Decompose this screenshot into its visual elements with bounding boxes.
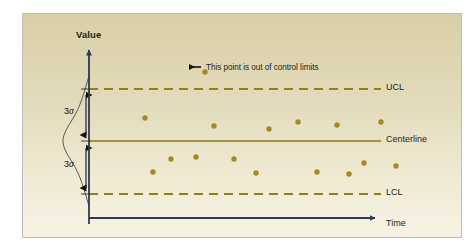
sigma-label-lower: 3σ [64,159,74,169]
control-chart-figure: Value Time UCL Centerline LCL This point… [22,13,462,238]
data-point [393,163,398,168]
sigma-lower-symbol: σ [69,159,74,169]
figure-page: Value Time UCL Centerline LCL This point… [0,0,474,252]
data-point [150,169,155,174]
data-point [142,115,147,120]
data-point [193,154,198,159]
data-point [361,160,366,165]
data-point [211,123,216,128]
data-point [295,119,300,124]
x-axis-label: Time [386,218,406,228]
data-point [266,126,271,131]
data-point [346,171,351,176]
y-axis-label: Value [76,29,101,40]
data-point [168,156,173,161]
control-chart-svg [23,14,462,238]
data-point [231,156,236,161]
chart-plot-area: Value Time UCL Centerline LCL This point… [23,14,462,238]
sigma-upper-symbol: σ [69,106,74,116]
data-point [253,170,258,175]
data-point [314,169,319,174]
data-point [334,122,339,127]
ucl-label: UCL [386,82,404,92]
sigma-label-upper: 3σ [64,106,74,116]
lcl-label: LCL [386,187,403,197]
out-of-control-annotation: This point is out of control limits [206,63,318,72]
centerline-label: Centerline [386,134,427,144]
data-point [378,119,383,124]
data-point-group [142,69,398,176]
